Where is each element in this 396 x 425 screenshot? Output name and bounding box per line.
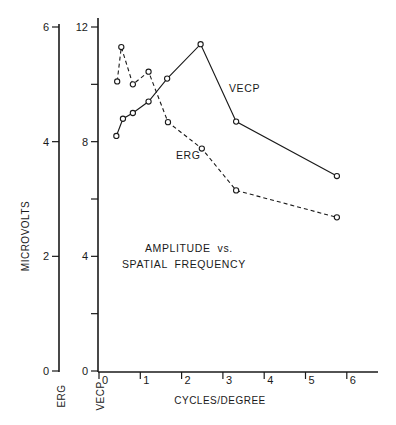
x-tick-label: 2 xyxy=(185,374,191,386)
y-tick-label: 0 xyxy=(43,365,49,377)
y-tick-label: 8 xyxy=(82,136,88,148)
y-tick-label: 6 xyxy=(43,21,49,33)
data-point-marker xyxy=(120,116,125,121)
x-axis-title: CYCLES/DEGREE xyxy=(174,395,266,406)
data-point-marker xyxy=(146,99,151,104)
x-axis: 0123456 xyxy=(98,372,378,386)
vecp-axis-label: VECP xyxy=(95,381,106,410)
x-tick-label: 5 xyxy=(309,374,315,386)
x-tick-label: 3 xyxy=(226,374,232,386)
erg-axis-label: ERG xyxy=(56,384,67,407)
series-line xyxy=(116,44,337,176)
series-erg xyxy=(115,44,340,219)
chart-canvas: 0246 04812 0123456 MICROVOLTS ERG VECP C… xyxy=(0,0,396,425)
erg-y-axis: 0246 xyxy=(43,21,59,377)
data-point-marker xyxy=(130,82,135,87)
data-point-marker xyxy=(146,69,151,74)
y-tick-label: 4 xyxy=(43,136,49,148)
y-axis-title: MICROVOLTS xyxy=(20,201,31,271)
erg-series-label: ERG xyxy=(176,149,201,161)
data-point-marker xyxy=(234,188,239,193)
data-point-marker xyxy=(334,215,339,220)
y-tick-label: 2 xyxy=(43,250,49,262)
x-tick-label: 4 xyxy=(267,374,273,386)
data-point-marker xyxy=(234,119,239,124)
data-point-marker xyxy=(198,42,203,47)
data-point-marker xyxy=(334,173,339,178)
y-tick-label: 12 xyxy=(76,21,88,33)
vecp-series-label: VECP xyxy=(229,82,260,94)
x-tick-label: 6 xyxy=(350,374,356,386)
chart-title-line-2: SPATIAL FREQUENCY xyxy=(122,258,246,270)
x-tick-label: 1 xyxy=(143,374,149,386)
y-tick-label: 4 xyxy=(82,250,88,262)
vecp-y-axis: 04812 xyxy=(76,18,98,377)
data-point-marker xyxy=(114,133,119,138)
series-vecp xyxy=(114,42,340,179)
y-tick-label: 0 xyxy=(82,365,88,377)
data-point-marker xyxy=(165,76,170,81)
data-point-marker xyxy=(130,110,135,115)
data-point-marker xyxy=(119,44,124,49)
data-point-marker xyxy=(165,120,170,125)
data-point-marker xyxy=(115,79,120,84)
chart-title-line-1: AMPLITUDE vs. xyxy=(145,242,233,254)
